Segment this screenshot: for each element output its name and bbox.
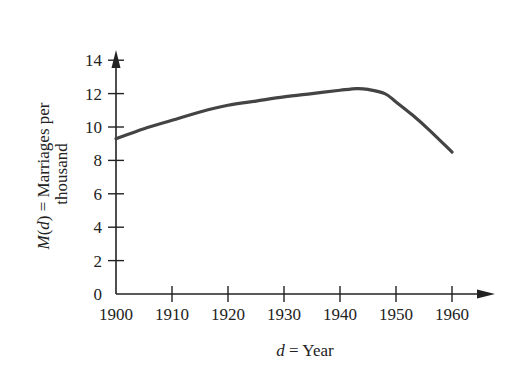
y-tick-label: 6 [94, 185, 103, 204]
x-tick-label: 1920 [211, 305, 245, 324]
x-tick-label: 1900 [99, 305, 133, 324]
svg-text:M(d) = Marriages per: M(d) = Marriages per [34, 102, 53, 250]
y-axis-title: M(d) = Marriages per thousand [34, 102, 71, 250]
x-axis-arrow-icon [477, 290, 495, 299]
y-axis-arrow-icon [112, 50, 121, 68]
x-tick-label: 1950 [379, 305, 413, 324]
y-tick-label: 0 [94, 285, 103, 304]
y-tick-label: 10 [85, 118, 102, 137]
marriage-rate-chart: 02468101214 1900191019201930194019501960… [0, 0, 515, 375]
y-tick-label: 4 [94, 218, 103, 237]
svg-text:thousand: thousand [52, 143, 71, 205]
x-axis-ticks: 1900191019201930194019501960 [99, 286, 469, 324]
x-tick-label: 1910 [155, 305, 189, 324]
marriage-rate-curve [116, 89, 452, 153]
y-tick-label: 8 [94, 151, 103, 170]
x-tick-label: 1940 [323, 305, 357, 324]
y-tick-label: 12 [85, 85, 102, 104]
y-tick-label: 2 [94, 252, 103, 271]
x-tick-label: 1930 [267, 305, 301, 324]
x-tick-label: 1960 [435, 305, 469, 324]
x-axis-title: d = Year [276, 341, 334, 360]
y-axis-ticks: 02468101214 [85, 51, 124, 304]
y-tick-label: 14 [85, 51, 103, 70]
